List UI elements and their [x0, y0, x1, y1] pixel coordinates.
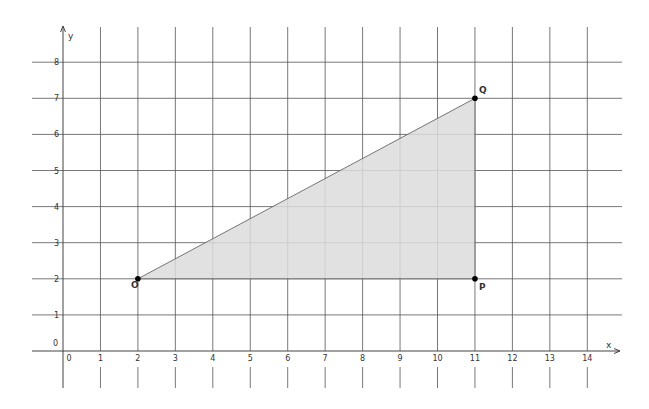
point-o-label: O — [131, 280, 139, 290]
y-tick-label: 2 — [54, 275, 59, 284]
y-tick-label: 5 — [54, 167, 59, 176]
point-q-dot — [472, 96, 478, 102]
x-tick-label: 3 — [173, 354, 178, 363]
x-tick-label: 7 — [323, 354, 328, 363]
x-tick-label: 1 — [98, 354, 103, 363]
x-tick-label: 10 — [432, 354, 442, 363]
y-tick-label: 3 — [54, 239, 59, 248]
y-tick-label: 0 — [53, 339, 58, 348]
x-tick-label: 4 — [210, 354, 215, 363]
point-q-label: Q — [479, 85, 487, 95]
x-tick-label: 12 — [507, 354, 517, 363]
triangle-opq — [138, 98, 475, 278]
coordinate-plane: xy 01234567891011121314012345678 OPQ — [0, 0, 649, 409]
x-tick-label: 0 — [66, 354, 71, 363]
x-tick-label: 14 — [582, 354, 592, 363]
x-tick-label: 11 — [470, 354, 480, 363]
x-tick-label: 13 — [545, 354, 555, 363]
y-tick-label: 8 — [54, 58, 59, 67]
point-p-dot — [472, 276, 478, 282]
x-tick-label: 9 — [398, 354, 403, 363]
x-axis-label: x — [606, 340, 612, 350]
y-tick-label: 7 — [54, 94, 59, 103]
x-tick-label: 2 — [135, 354, 140, 363]
y-tick-label: 4 — [54, 203, 59, 212]
y-tick-label: 1 — [54, 311, 59, 320]
x-tick-label: 8 — [360, 354, 365, 363]
x-tick-label: 5 — [248, 354, 253, 363]
y-tick-label: 6 — [54, 130, 59, 139]
y-axis-label: y — [68, 31, 74, 41]
point-p-label: P — [479, 282, 486, 292]
x-tick-label: 6 — [285, 354, 290, 363]
